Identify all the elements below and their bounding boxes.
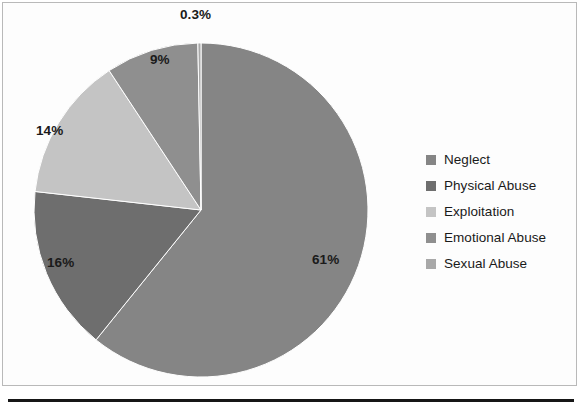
figure-bottom-rule xyxy=(8,399,574,402)
legend-item-sexual-abuse[interactable]: Sexual Abuse xyxy=(426,250,572,276)
legend-item-physical-abuse[interactable]: Physical Abuse xyxy=(426,172,572,198)
legend-swatch-icon xyxy=(426,207,436,217)
pie-value-label-exploitation: 14% xyxy=(36,123,63,138)
pie-plot-area: 61%16%14%9%0.3% xyxy=(0,0,415,386)
legend-swatch-icon xyxy=(426,155,436,165)
legend-swatch-icon xyxy=(426,181,436,191)
pie-value-label-sexual-abuse: 0.3% xyxy=(180,7,211,22)
legend-swatch-icon xyxy=(426,259,436,269)
legend-item-label: Neglect xyxy=(444,152,490,167)
pie-value-label-physical-abuse: 16% xyxy=(47,255,74,270)
pie-chart-svg xyxy=(0,0,415,386)
legend-swatch-icon xyxy=(426,233,436,243)
legend-item-label: Exploitation xyxy=(444,204,514,219)
legend-item-exploitation[interactable]: Exploitation xyxy=(426,198,572,224)
pie-value-label-neglect: 61% xyxy=(312,252,339,267)
legend-item-label: Sexual Abuse xyxy=(444,256,527,271)
legend-item-label: Emotional Abuse xyxy=(444,230,546,245)
chart-legend: NeglectPhysical AbuseExploitationEmotion… xyxy=(426,146,572,276)
legend-item-neglect[interactable]: Neglect xyxy=(426,146,572,172)
pie-chart-figure: 61%16%14%9%0.3% NeglectPhysical AbuseExp… xyxy=(0,0,581,413)
pie-value-label-emotional-abuse: 9% xyxy=(150,52,170,67)
legend-item-label: Physical Abuse xyxy=(444,178,536,193)
pie-slice-group xyxy=(34,43,368,377)
legend-item-emotional-abuse[interactable]: Emotional Abuse xyxy=(426,224,572,250)
